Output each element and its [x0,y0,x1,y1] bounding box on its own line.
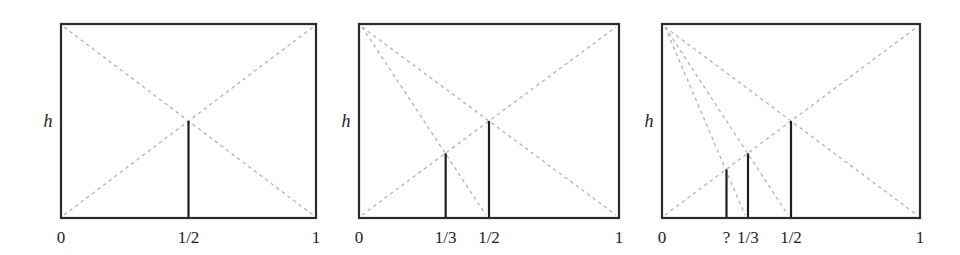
x-tick-label: 1/2 [478,228,500,247]
diagram-canvas: h01/21h01/31/21h0?1/31/21 [0,0,960,255]
x-tick-label: 1 [312,228,321,247]
x-tick-label: 0 [658,228,667,247]
y-axis-label: h [342,111,351,131]
x-tick-label: ? [723,228,731,247]
x-tick-label: 1/2 [178,228,200,247]
x-tick-label: 1/2 [780,228,802,247]
y-axis-label: h [44,111,53,131]
panel-1: h01/21 [44,24,321,247]
dashed-line [362,27,486,215]
x-tick-label: 0 [355,228,364,247]
panel-2: h01/31/21 [342,24,624,247]
panel-3: h0?1/31/21 [645,24,925,247]
x-tick-label: 0 [57,228,66,247]
x-tick-label: 1 [916,228,925,247]
y-axis-label: h [645,111,654,131]
x-tick-label: 1/3 [737,228,759,247]
dashed-line [665,27,745,215]
x-tick-label: 1/3 [435,228,457,247]
x-tick-label: 1 [615,228,624,247]
